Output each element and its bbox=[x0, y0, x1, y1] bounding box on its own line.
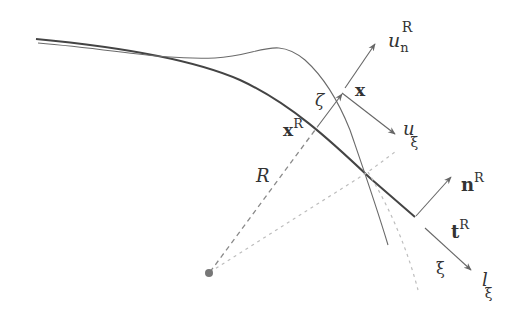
u-xi-arrow bbox=[342, 93, 395, 134]
n-r-arrow bbox=[416, 177, 451, 216]
label-l-xi: lξ bbox=[482, 269, 493, 301]
continuation-dotted-curve bbox=[368, 172, 418, 290]
label-t-r: tR bbox=[451, 217, 470, 242]
label-x-r: xR bbox=[283, 116, 304, 140]
perturbed-curve bbox=[38, 43, 388, 245]
reference-curve bbox=[36, 39, 415, 217]
label-r: R bbox=[255, 165, 270, 186]
label-xi: ξ bbox=[436, 259, 445, 278]
radius-dashed-line bbox=[210, 126, 318, 272]
geometry-diagram: unR x ζ xR uξ R nR tR ξ lξ bbox=[0, 0, 525, 318]
origin-point bbox=[205, 269, 213, 277]
t-r-arrow bbox=[425, 228, 471, 270]
label-u-n: unR bbox=[388, 19, 413, 55]
label-x: x bbox=[355, 80, 366, 100]
projection-dotted-line bbox=[210, 152, 395, 272]
label-zeta: ζ bbox=[315, 90, 326, 110]
label-u-xi: uξ bbox=[403, 118, 419, 150]
label-n-r: nR bbox=[461, 170, 485, 195]
